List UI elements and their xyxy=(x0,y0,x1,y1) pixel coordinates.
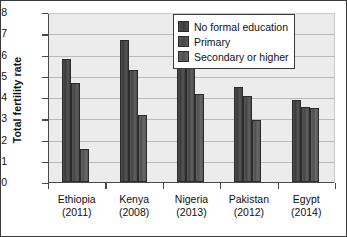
bar-group xyxy=(120,13,147,182)
x-axis-tick-mark xyxy=(278,183,279,189)
y-axis-tick-label: 7 xyxy=(0,27,7,39)
bar[interactable] xyxy=(129,70,138,182)
bar[interactable] xyxy=(186,53,195,182)
bar[interactable] xyxy=(62,59,71,182)
bar[interactable] xyxy=(138,115,147,182)
y-axis-tick-label: 2 xyxy=(0,134,7,146)
legend-label: Secondary or higher xyxy=(194,51,289,63)
legend-label: No formal education xyxy=(194,21,288,33)
bar[interactable] xyxy=(243,96,252,182)
y-axis-title: Total fertility rate xyxy=(11,30,25,170)
legend-swatch-primary xyxy=(178,36,189,47)
bar[interactable] xyxy=(120,40,129,182)
y-axis-tick-label: 1 xyxy=(0,155,7,167)
bar[interactable] xyxy=(292,100,301,182)
legend-swatch-secondary-or-higher xyxy=(178,51,189,62)
category-year: (2014) xyxy=(269,206,343,219)
legend-swatch-no-formal-education xyxy=(178,21,189,32)
bar[interactable] xyxy=(71,83,80,182)
bar-group xyxy=(62,13,89,182)
x-axis-tick-mark xyxy=(335,183,336,189)
chart-figure: Total fertility rate 012345678 Ethiopia(… xyxy=(0,0,347,237)
bar[interactable] xyxy=(195,94,204,182)
y-axis-tick-label: 5 xyxy=(0,70,7,82)
x-axis-tick-mark xyxy=(220,183,221,189)
y-axis-tick-label: 0 xyxy=(0,176,7,188)
bar[interactable] xyxy=(234,87,243,182)
legend-item[interactable]: Secondary or higher xyxy=(178,49,289,64)
x-axis-tick-mark xyxy=(163,183,164,189)
legend-label: Primary xyxy=(194,36,230,48)
x-axis-tick-mark xyxy=(48,183,49,189)
category-name: Egypt xyxy=(269,193,343,206)
bar[interactable] xyxy=(310,108,319,182)
chart-legend: No formal education Primary Secondary or… xyxy=(173,14,295,69)
x-axis-category-label: Egypt(2014) xyxy=(269,193,343,218)
y-axis-tick-label: 8 xyxy=(0,6,7,18)
legend-item[interactable]: No formal education xyxy=(178,19,289,34)
y-axis-tick-label: 6 xyxy=(0,49,7,61)
x-axis-tick-mark xyxy=(105,183,106,189)
bar[interactable] xyxy=(80,149,89,182)
bar-group xyxy=(292,13,319,182)
legend-item[interactable]: Primary xyxy=(178,34,289,49)
y-axis-tick-label: 3 xyxy=(0,112,7,124)
bar[interactable] xyxy=(301,107,310,182)
bar[interactable] xyxy=(252,120,261,182)
y-axis-tick-label: 4 xyxy=(0,91,7,103)
